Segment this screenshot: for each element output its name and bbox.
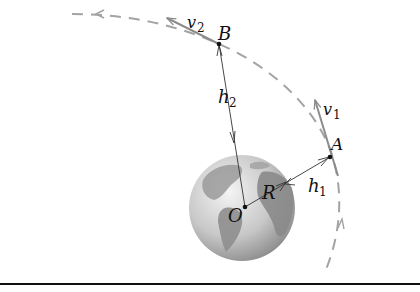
label-h1: h <box>308 175 320 196</box>
h2-arrow-top <box>217 45 222 56</box>
diagram-canvas: B A O R v 2 v 1 h 2 h 1 <box>0 0 420 292</box>
label-R: R <box>261 182 276 203</box>
label-v2: v <box>187 13 196 32</box>
h2-arrow-bottom <box>230 131 235 143</box>
label-B: B <box>217 23 231 44</box>
point-A <box>328 155 333 160</box>
label-v2-sub: 2 <box>197 21 205 35</box>
h1-arrow-top <box>318 157 329 166</box>
label-h1-sub: 1 <box>319 185 327 199</box>
label-v1-sub: 1 <box>333 108 341 122</box>
label-v1: v <box>323 100 332 119</box>
label-O: O <box>228 205 243 226</box>
label-h2-sub: 2 <box>229 96 237 110</box>
point-O <box>243 205 248 210</box>
label-A: A <box>329 134 343 154</box>
label-h2: h <box>218 86 230 107</box>
orbit-diagram: B A O R v 2 v 1 h 2 h 1 <box>0 0 420 292</box>
